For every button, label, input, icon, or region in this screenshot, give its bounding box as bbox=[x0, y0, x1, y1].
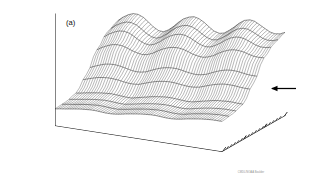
ch4-surface-figure: 1800 1700 1600 1500 CH4 (ppb) bbox=[0, 0, 316, 190]
figure-canvas: 1800 1700 1600 1500 CH4 (ppb) bbox=[0, 0, 316, 190]
panel-label: (a) bbox=[66, 18, 76, 27]
credit-text: CMDL/NOAA Boulder bbox=[238, 170, 265, 174]
